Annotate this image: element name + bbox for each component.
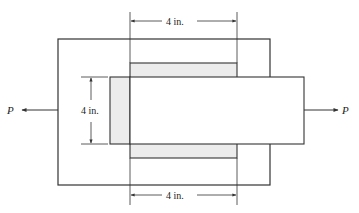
inner-plate-right xyxy=(130,77,304,144)
top-dimension-label: 4 in. xyxy=(166,16,184,27)
bottom-dimension-label: 4 in. xyxy=(166,190,184,201)
inner-plate-left-stub xyxy=(110,77,130,144)
left-load-arrow: P xyxy=(6,104,58,116)
bottom-dimension: 4 in. xyxy=(130,158,237,205)
left-load-label: P xyxy=(6,104,14,116)
top-dimension: 4 in. xyxy=(130,12,237,63)
left-dimension-label: 4 in. xyxy=(81,105,99,116)
right-load-arrow: P xyxy=(304,104,349,116)
left-dimension: 4 in. xyxy=(81,77,108,144)
joint-diagram: P P 4 in. 4 in. 4 in. xyxy=(0,0,359,213)
right-load-label: P xyxy=(341,104,349,116)
